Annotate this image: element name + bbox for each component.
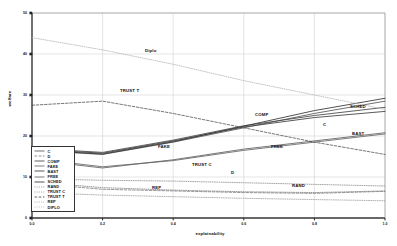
legend-item-diplo[interactable]: DIPLO <box>34 205 72 210</box>
legend-swatch-icon <box>34 164 45 168</box>
y-tick-label: 40 <box>15 52 27 56</box>
legend-swatch-icon <box>34 180 45 184</box>
series-line-trust-t <box>32 101 385 154</box>
legend-swatch-icon <box>34 200 45 204</box>
series-line-bast <box>32 111 385 153</box>
series-line-c <box>32 101 385 154</box>
inline-label-trust-c: TRUST C <box>192 162 212 167</box>
inline-label-comp: COMP <box>255 112 269 117</box>
x-tick-label: 1.0 <box>377 222 393 226</box>
legend-swatch-icon <box>34 154 45 158</box>
legend-swatch-icon <box>34 149 45 153</box>
series-line-sched <box>32 98 385 154</box>
data-series-group <box>32 38 385 201</box>
inline-label-d: D <box>231 170 234 175</box>
legend-swatch-icon <box>34 175 45 179</box>
series-line-diplo <box>32 38 385 110</box>
inline-label-free: FREE <box>271 144 283 149</box>
legend-swatch-icon <box>34 205 45 209</box>
inline-label-bast: BAST <box>352 131 364 136</box>
y-tick-label: 20 <box>15 134 27 138</box>
legend-swatch-icon <box>34 190 45 194</box>
axis-lines <box>32 13 385 218</box>
y-tick-label: 10 <box>15 175 27 179</box>
gridlines <box>32 13 385 218</box>
x-tick-label: 0.0 <box>24 222 40 226</box>
inline-label-rand: RAND <box>292 183 305 188</box>
series-line-trust-c <box>32 179 385 186</box>
x-tick-label: 0.6 <box>236 222 252 226</box>
inline-label-diplo: Diplo <box>145 48 157 53</box>
chart-figure: welfare explainability 01020304050 0.00.… <box>0 0 397 246</box>
chart-legend[interactable]: CDCOMPFAKEBASTFREESCHEDRANDTRUST CTRUST … <box>31 146 75 212</box>
legend-label: DIPLO <box>48 205 60 210</box>
y-tick-label: 0 <box>15 216 27 220</box>
legend-swatch-icon <box>34 195 45 199</box>
y-tick-label: 30 <box>15 93 27 97</box>
series-line-rand <box>32 182 385 193</box>
inline-label-sched: SCHED <box>350 104 366 109</box>
x-tick-label: 0.4 <box>165 222 181 226</box>
series-line-comp <box>32 107 385 152</box>
legend-swatch-icon <box>34 159 45 163</box>
inline-label-c: C <box>323 122 326 127</box>
x-tick-label: 0.2 <box>95 222 111 226</box>
inline-label-fake: FAKE <box>158 144 170 149</box>
x-tick-label: 0.8 <box>306 222 322 226</box>
legend-swatch-icon <box>34 185 45 189</box>
y-tick-label: 50 <box>15 11 27 15</box>
series-line-rep <box>32 193 385 201</box>
inline-label-rep: REP <box>152 185 161 190</box>
inline-label-trust-t: TRUST T <box>120 88 139 93</box>
legend-swatch-icon <box>34 169 45 173</box>
